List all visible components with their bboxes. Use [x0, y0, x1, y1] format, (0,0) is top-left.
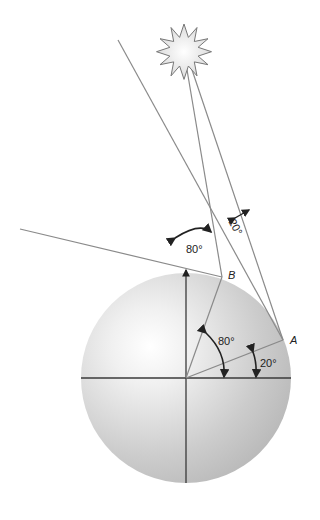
angle-arc-80-top: [175, 228, 211, 238]
point-label-b: B: [228, 269, 235, 281]
angle-label-20-center: 20°: [260, 357, 277, 369]
angle-label-80-top: 80°: [186, 243, 203, 255]
sun-icon: [157, 24, 212, 79]
diagram-canvas: 80° 20° 80° 20° B A: [0, 0, 320, 520]
point-label-a: A: [289, 334, 297, 346]
angle-label-80-center: 80°: [218, 335, 235, 347]
